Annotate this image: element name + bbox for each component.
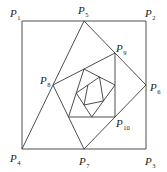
label-p5: P5	[77, 4, 88, 18]
label-p10: P10	[115, 117, 130, 131]
label-p9: P9	[115, 42, 126, 56]
label-p2: P2	[144, 7, 155, 21]
label-p4: P4	[9, 152, 21, 166]
label-p1: P1	[9, 7, 20, 21]
spiral-square-diagram: P1P5P2P9P8P6P10P4P7P3	[0, 0, 167, 172]
label-p8: P8	[39, 74, 50, 88]
label-p7: P7	[78, 155, 90, 169]
label-p3: P3	[144, 155, 155, 169]
label-p6: P6	[149, 81, 161, 95]
point-labels: P1P5P2P9P8P6P10P4P7P3	[9, 4, 161, 169]
